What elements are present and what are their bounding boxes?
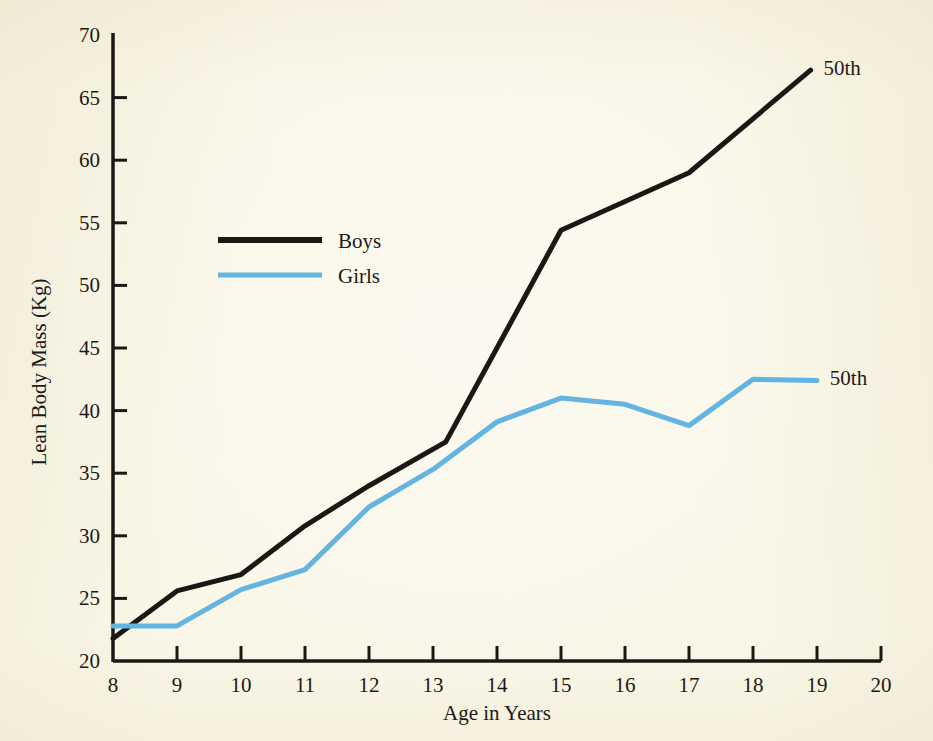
legend-label-girls: Girls	[338, 264, 380, 288]
x-tick-label: 13	[423, 673, 444, 697]
y-tick-label: 20	[79, 649, 100, 673]
y-tick-label: 70	[79, 23, 100, 47]
x-axis-ticks: 891011121314151617181920	[108, 646, 892, 697]
y-tick-label: 50	[79, 273, 100, 297]
y-tick-label: 30	[79, 524, 100, 548]
x-tick-label: 8	[108, 673, 119, 697]
y-tick-label: 45	[79, 336, 100, 360]
x-tick-label: 15	[551, 673, 572, 697]
x-tick-label: 9	[172, 673, 183, 697]
x-tick-label: 12	[359, 673, 380, 697]
annotation-girls: 50th	[830, 366, 868, 390]
legend-label-boys: Boys	[338, 229, 381, 253]
x-tick-label: 20	[871, 673, 892, 697]
x-tick-label: 19	[807, 673, 828, 697]
x-tick-label: 11	[295, 673, 315, 697]
x-tick-label: 17	[679, 673, 700, 697]
data-series-layer	[113, 70, 817, 638]
y-tick-label: 40	[79, 399, 100, 423]
y-axis-title: Lean Body Mass (Kg)	[27, 278, 51, 465]
x-tick-label: 10	[231, 673, 252, 697]
series-annotations: 50th50th	[823, 56, 867, 390]
y-tick-label: 55	[79, 211, 100, 235]
series-line-boys	[113, 70, 811, 638]
y-axis-ticks: 2025303540455055606570	[79, 23, 127, 673]
y-tick-label: 60	[79, 148, 100, 172]
y-tick-label: 65	[79, 86, 100, 110]
y-tick-label: 35	[79, 461, 100, 485]
lean-body-mass-line-chart: 2025303540455055606570 89101112131415161…	[0, 0, 933, 741]
annotation-boys: 50th	[823, 56, 861, 80]
legend: BoysGirls	[218, 229, 381, 288]
chart-page: 2025303540455055606570 89101112131415161…	[0, 0, 933, 741]
y-tick-label: 25	[79, 586, 100, 610]
x-tick-label: 16	[615, 673, 636, 697]
x-tick-label: 18	[743, 673, 764, 697]
x-axis-title: Age in Years	[443, 701, 551, 725]
series-line-girls	[113, 379, 817, 626]
x-tick-label: 14	[487, 673, 509, 697]
